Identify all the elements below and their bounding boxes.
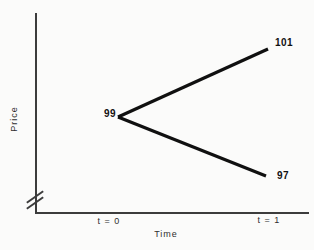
branch-lines [0,0,314,250]
node-label-start: 99 [98,108,116,119]
x-tick-t1: t = 1 [253,215,285,225]
x-axis-label: Time [146,229,186,239]
binomial-price-tree-figure: 99 101 97 t = 0 t = 1 Price Time [0,0,314,250]
node-label-down: 97 [277,170,289,181]
y-axis-label: Price [7,99,21,139]
up-branch-line [118,49,268,117]
node-label-up: 101 [275,37,293,48]
down-branch-line [118,117,266,176]
x-tick-t0: t = 0 [93,216,125,226]
